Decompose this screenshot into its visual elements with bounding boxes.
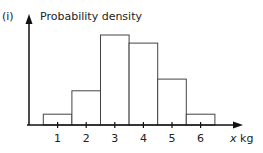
part-label: (i) (2, 10, 14, 23)
x-tick-label: 3 (111, 132, 118, 145)
histogram-bar (129, 43, 158, 125)
y-axis-label: Probability density (40, 10, 142, 23)
histogram-bar (158, 79, 187, 125)
x-tick-label: 1 (54, 132, 61, 145)
histogram-chart: (i) Probability density 123456 x kg (0, 0, 263, 153)
x-tick-label: 5 (169, 132, 176, 145)
x-axis-arrow-icon (233, 122, 243, 129)
y-axis-arrow-icon (26, 14, 33, 24)
x-tick-label: 6 (197, 132, 204, 145)
x-tick-label: 2 (83, 132, 90, 145)
histogram-bar (101, 35, 130, 125)
x-tick-label: 4 (140, 132, 147, 145)
histogram-bar (72, 91, 101, 125)
x-axis-label: x kg (229, 132, 253, 145)
bars (43, 35, 215, 125)
